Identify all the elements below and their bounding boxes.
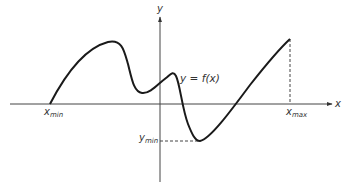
y-min-label: ymin [138, 132, 158, 145]
function-graph-diagram: y x y = f(x) xmin xmax ymin [0, 0, 343, 187]
curve-label: y = f(x) [179, 72, 220, 84]
function-curve [50, 39, 290, 141]
y-axis-label: y [156, 3, 164, 14]
x-axis-label: x [334, 98, 341, 109]
x-min-label: xmin [43, 106, 63, 119]
x-max-label: xmax [285, 106, 308, 119]
